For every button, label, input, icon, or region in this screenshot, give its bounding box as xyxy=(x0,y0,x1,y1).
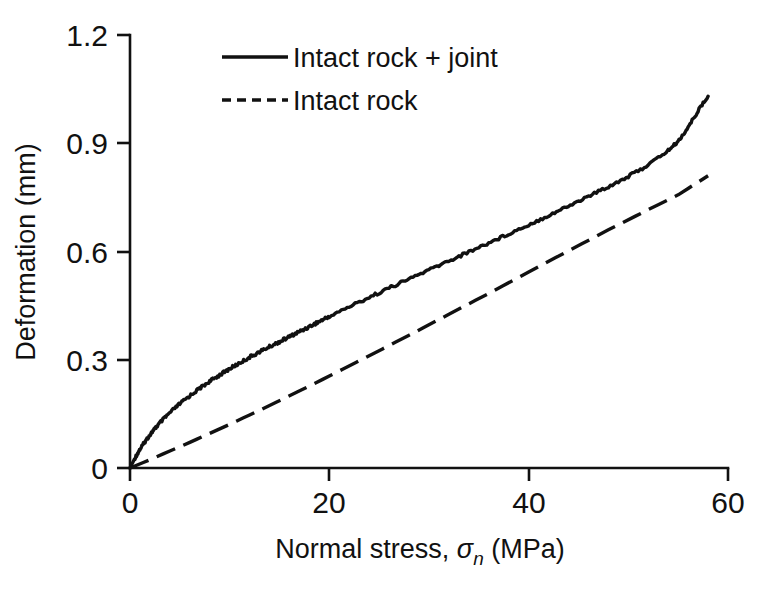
x-axis-title-symbol: σ xyxy=(457,534,475,564)
y-tick-label-2: 0.6 xyxy=(66,236,108,269)
x-tick-label-1: 20 xyxy=(312,486,345,519)
y-tick-label-3: 0.9 xyxy=(66,127,108,160)
x-axis-title-suffix: (MPa) xyxy=(484,534,565,564)
y-tick-label-0: 0 xyxy=(91,452,108,485)
x-axis-title: Normal stress, σn (MPa) xyxy=(275,534,564,569)
x-tick-label-0: 0 xyxy=(122,486,139,519)
deformation-vs-normal-stress-chart: 0 0.3 0.6 0.9 1.2 Deformation (mm) 0 20 … xyxy=(0,0,763,591)
y-tick-label-4: 1.2 xyxy=(66,19,108,52)
x-tick-label-3: 60 xyxy=(711,486,744,519)
x-axis-title-prefix: Normal stress, xyxy=(275,534,457,564)
y-tick-label-1: 0.3 xyxy=(66,344,108,377)
x-axis-title-subscript: n xyxy=(473,548,484,569)
figure-container: 0 0.3 0.6 0.9 1.2 Deformation (mm) 0 20 … xyxy=(0,0,763,591)
legend-label-0: Intact rock + joint xyxy=(293,43,498,73)
x-tick-label-2: 40 xyxy=(512,486,545,519)
y-axis-title: Deformation (mm) xyxy=(11,143,41,361)
legend-label-1: Intact rock xyxy=(293,86,418,116)
